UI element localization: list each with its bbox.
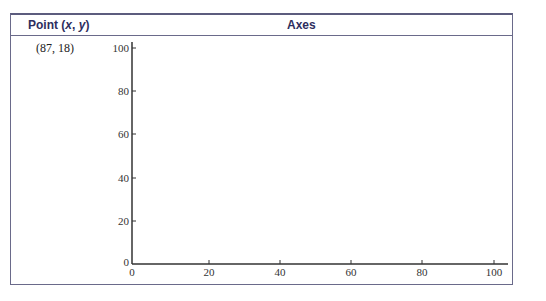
empty-axes[interactable]: 100 80 60 40 20 0 0 20 40 60 80 100	[0, 0, 546, 301]
x-tick-label: 80	[417, 266, 429, 278]
x-tick-label: 100	[486, 266, 503, 278]
y-tick-label: 80	[118, 85, 130, 97]
y-tick-label: 60	[118, 128, 130, 140]
y-tick-label: 20	[118, 215, 130, 227]
x-tick-label: 40	[275, 266, 287, 278]
x-tick-label: 60	[346, 266, 358, 278]
x-ticks: 0 20 40 60 80 100	[129, 260, 503, 278]
y-tick-label: 40	[118, 172, 130, 184]
x-tick-label: 0	[129, 266, 135, 278]
y-tick-label: 100	[113, 42, 130, 54]
x-tick-label: 20	[204, 266, 216, 278]
